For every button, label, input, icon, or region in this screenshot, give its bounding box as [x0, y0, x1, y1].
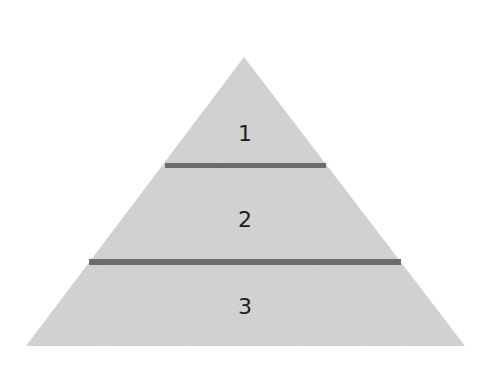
- tier-label-3: 3: [238, 294, 252, 319]
- tier-label-1: 1: [238, 121, 252, 146]
- tier-divider-1: [165, 163, 326, 168]
- tier-divider-2: [89, 259, 401, 265]
- tier-label-2: 2: [238, 207, 252, 232]
- pyramid-diagram: 1 2 3: [0, 0, 488, 370]
